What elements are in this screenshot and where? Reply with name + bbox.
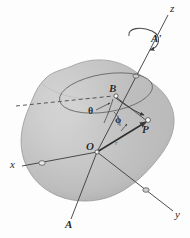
diagram-svg xyxy=(0,0,190,238)
rigid-body-shading xyxy=(21,60,174,201)
x-axis-tick-marker xyxy=(39,161,45,166)
point-marker-B xyxy=(114,94,118,98)
figure-canvas: z x y A A' O B P θ ϕ r xyxy=(0,0,190,238)
point-marker-P xyxy=(146,118,151,123)
point-marker-O xyxy=(95,150,99,154)
y-axis-tick-marker xyxy=(143,188,149,193)
spin-arrow xyxy=(129,28,159,50)
rigid-body-shape xyxy=(21,60,174,201)
spin-arrow-curve xyxy=(129,28,159,50)
